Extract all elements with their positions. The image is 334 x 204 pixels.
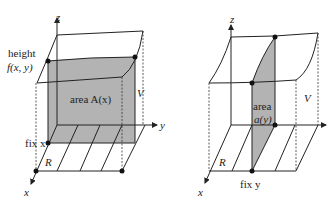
fix-y-label: fix y <box>240 178 261 190</box>
x-axis-label: x <box>23 186 29 198</box>
region-label: R <box>44 156 52 168</box>
volume-label: V <box>137 87 145 99</box>
iterated-integral-diagram: z y x height f(x, y) area A(x) V fix x R <box>0 0 334 204</box>
left-figure: z y x height f(x, y) area A(x) V fix x R <box>7 11 165 198</box>
area-ax-label: area A(x) <box>70 93 112 106</box>
area-ay-label: a(y) <box>254 113 272 126</box>
x-axis <box>31 125 57 184</box>
z-axis-label: z <box>55 11 61 23</box>
x-axis-label: x <box>197 186 203 198</box>
surface-back-edge <box>57 31 143 35</box>
y-axis-label: y <box>159 119 165 131</box>
height-label: height <box>8 47 36 59</box>
fix-x-label: fix x <box>25 137 46 149</box>
region-label: R <box>218 156 226 168</box>
z-axis-label: z <box>229 13 235 25</box>
area-label: area <box>253 100 271 112</box>
volume-label: V <box>304 92 312 104</box>
right-figure: z x area a(y) V fix y R <box>197 13 326 198</box>
function-label: f(x, y) <box>7 61 33 74</box>
